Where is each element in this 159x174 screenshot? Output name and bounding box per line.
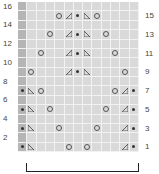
chart-cell (65, 58, 74, 67)
chart-cell (130, 96, 139, 105)
chart-cell (92, 58, 101, 67)
row-number-label: 7 (145, 87, 149, 95)
chart-cell (92, 96, 101, 105)
chart-cell (111, 21, 120, 30)
k2tog-triangle-icon (121, 88, 128, 94)
yarn-over-circle-icon (103, 31, 109, 37)
chart-cell (27, 96, 36, 105)
chart-cell (27, 143, 36, 152)
chart-cell (18, 58, 27, 67)
chart-cell (46, 21, 55, 30)
chart-cell (18, 68, 27, 77)
chart-cell (27, 11, 36, 20)
chart-cell (120, 96, 129, 105)
chart-cell (74, 143, 83, 152)
chart-cell (92, 133, 101, 142)
chart-cell (120, 115, 129, 124)
chart-cell (102, 86, 111, 95)
chart-cell (83, 30, 92, 39)
purl-dot-icon (132, 145, 135, 148)
chart-cell (92, 21, 101, 30)
chart-cell (37, 115, 46, 124)
chart-cell (65, 133, 74, 142)
purl-dot-icon (21, 89, 24, 92)
chart-cell (111, 124, 120, 133)
chart-cell (130, 21, 139, 30)
chart-cell (46, 143, 55, 152)
chart-cell (65, 68, 74, 77)
yarn-over-circle-icon (112, 88, 118, 94)
chart-cell (102, 30, 111, 39)
chart-cell (102, 105, 111, 114)
chart-cell (74, 49, 83, 58)
chart-cell (83, 115, 92, 124)
chart-cell (27, 105, 36, 114)
chart-cell (130, 30, 139, 39)
chart-cell (27, 49, 36, 58)
chart-cell (37, 124, 46, 133)
chart-cell (18, 133, 27, 142)
chart-cell (18, 105, 27, 114)
purl-dot-icon (76, 70, 79, 73)
ssk-triangle-icon (84, 69, 91, 75)
chart-cell (92, 77, 101, 86)
ssk-triangle-icon (84, 50, 91, 56)
row-number-label: 3 (145, 125, 149, 133)
ssk-triangle-icon (84, 13, 91, 19)
chart-cell (18, 21, 27, 30)
chart-cell (55, 96, 64, 105)
chart-cell (83, 49, 92, 58)
chart-cell (27, 124, 36, 133)
chart-cell (92, 30, 101, 39)
chart-cell (120, 77, 129, 86)
chart-cell (65, 49, 74, 58)
chart-cell (120, 133, 129, 142)
chart-cell (27, 115, 36, 124)
purl-dot-icon (76, 33, 79, 36)
chart-cell (92, 2, 101, 11)
chart-cell (55, 105, 64, 114)
chart-cell (55, 2, 64, 11)
yarn-over-circle-icon (112, 50, 118, 56)
chart-cell (18, 2, 27, 11)
row-number-label: 10 (3, 59, 12, 67)
chart-cell (111, 133, 120, 142)
row-number-label: 15 (145, 12, 154, 20)
chart-cell (130, 105, 139, 114)
chart-cell (74, 115, 83, 124)
chart-cell (65, 86, 74, 95)
chart-cell (111, 96, 120, 105)
chart-cell (111, 105, 120, 114)
chart-cell (92, 40, 101, 49)
row-number-label: 12 (3, 40, 12, 48)
chart-cell (83, 86, 92, 95)
chart-cell (130, 133, 139, 142)
chart-cell (37, 11, 46, 20)
chart-cell (83, 21, 92, 30)
purl-dot-icon (132, 108, 135, 111)
chart-cell (27, 40, 36, 49)
chart-cell (27, 68, 36, 77)
chart-cell (92, 124, 101, 133)
row-number-label: 13 (145, 31, 154, 39)
chart-cell (111, 2, 120, 11)
chart-cell (46, 2, 55, 11)
chart-cell (37, 21, 46, 30)
yarn-over-circle-icon (122, 69, 128, 75)
yarn-over-circle-icon (38, 88, 44, 94)
chart-cell (83, 96, 92, 105)
chart-cell (92, 86, 101, 95)
chart-cell (37, 2, 46, 11)
ssk-triangle-icon (28, 88, 35, 94)
chart-cell (120, 11, 129, 20)
chart-cell (65, 30, 74, 39)
chart-cell (55, 49, 64, 58)
chart-cell (102, 143, 111, 152)
chart-cell (83, 133, 92, 142)
chart-cell (120, 2, 129, 11)
chart-cell (83, 124, 92, 133)
chart-cell (65, 77, 74, 86)
purl-dot-icon (21, 127, 24, 130)
chart-cell (130, 86, 139, 95)
chart-cell (37, 30, 46, 39)
